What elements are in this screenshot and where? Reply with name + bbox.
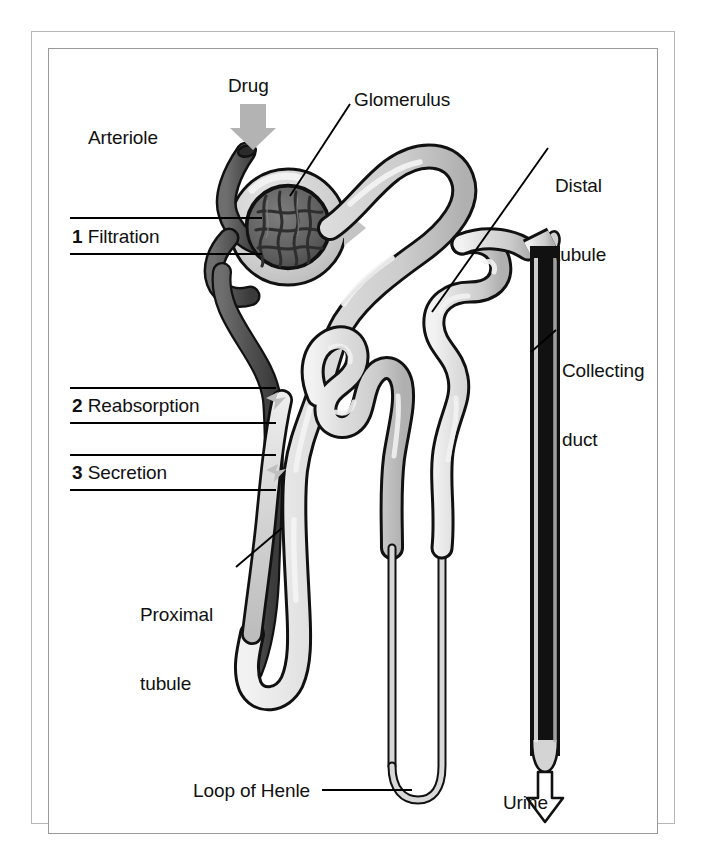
step-number-2: 2 [72,395,82,416]
label-drug: Drug [228,74,269,97]
label-collecting-duct: Collecting duct [562,313,644,497]
label-loop-of-henle: Loop of Henle [193,779,310,802]
label-step-secretion: 3 Secretion [72,461,167,484]
label-glomerulus: Glomerulus [354,88,450,111]
label-arteriole: Arteriole [88,126,158,149]
step-number-1: 1 [72,226,82,247]
label-proximal-tubule: Proximal tubule [140,557,213,741]
label-proximal-tubule-line1: Proximal [140,603,213,626]
step-name-2: Reabsorption [88,395,200,416]
label-distal-tubule-line2: tubule [555,243,606,266]
drug-inflow-arrow [230,104,276,150]
label-collecting-duct-line1: Collecting [562,359,644,382]
loop-of-henle [313,337,442,800]
label-distal-tubule-line1: Distal [555,174,606,197]
step-name-3: Secretion [88,462,167,483]
label-proximal-tubule-line2: tubule [140,672,213,695]
label-distal-tubule: Distal tubule [555,128,606,312]
step-name-1: Filtration [88,226,160,247]
glomerulus [247,186,329,268]
step-number-3: 3 [72,462,82,483]
collecting-duct [532,246,558,772]
label-collecting-duct-line2: duct [562,428,644,451]
label-urine: Urine [503,791,548,814]
label-step-reabsorption: 2 Reabsorption [72,394,199,417]
label-step-filtration: 1 Filtration [72,225,160,248]
nephron-figure: Arteriole Drug Glomerulus Distal tubule … [0,0,707,857]
